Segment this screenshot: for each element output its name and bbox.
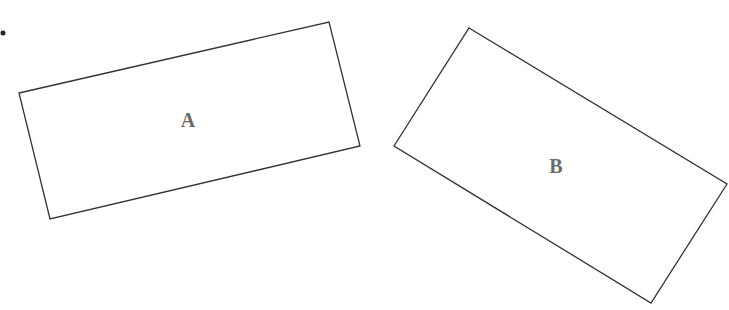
rectangle-b-label: B [549,155,562,177]
rectangle-b: B [394,28,727,303]
rectangle-a-label: A [181,109,196,131]
diagram-canvas: A B [0,0,729,310]
bullet-dot [1,31,6,36]
rectangle-a: A [19,22,360,219]
